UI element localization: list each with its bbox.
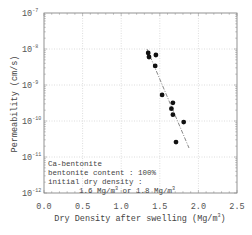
y-axis-label: Permeability (cm/s) [10, 56, 20, 153]
data-point [153, 64, 158, 69]
svg-text:1.0: 1.0 [114, 202, 129, 212]
svg-text:10-7: 10-7 [22, 8, 38, 19]
svg-text:10-9: 10-9 [22, 80, 38, 91]
data-point [174, 140, 179, 145]
data-point [147, 55, 152, 60]
y-tick-labels: 10-7 10-8 10-9 10-10 10-11 10-12 [22, 8, 41, 199]
svg-text:bentonite content : 100%: bentonite content : 100% [48, 169, 157, 177]
svg-text:0.0: 0.0 [36, 202, 51, 212]
x-tick-labels: 0.0 0.5 1.0 1.5 2.0 2.5 [36, 202, 244, 212]
data-point [154, 53, 159, 58]
svg-text:1.5: 1.5 [152, 202, 167, 212]
data-point [181, 120, 186, 125]
svg-text:Ca-bentonite: Ca-bentonite [48, 160, 102, 168]
svg-text:10-8: 10-8 [22, 44, 38, 55]
svg-text:initial dry density :: initial dry density : [48, 178, 143, 186]
permeability-chart: 10-7 10-8 10-9 10-10 10-11 10-12 0.0 0.5… [0, 0, 252, 235]
svg-text:10-10: 10-10 [22, 116, 41, 127]
data-point [171, 100, 176, 105]
svg-text:10-11: 10-11 [22, 152, 41, 163]
svg-text:0.5: 0.5 [75, 202, 90, 212]
svg-text:2.5: 2.5 [229, 202, 244, 212]
svg-text:1.6 Mg/m3 or 1.8 Mg/m3: 1.6 Mg/m3 or 1.8 Mg/m3 [79, 186, 175, 195]
svg-text:2.0: 2.0 [191, 202, 206, 212]
data-point [171, 112, 176, 117]
data-point [146, 51, 151, 56]
x-axis-label: Dry Density after swelling (Mg/m3) [54, 213, 225, 224]
data-point [160, 93, 165, 98]
svg-text:10-12: 10-12 [22, 188, 41, 199]
data-point [169, 106, 174, 111]
